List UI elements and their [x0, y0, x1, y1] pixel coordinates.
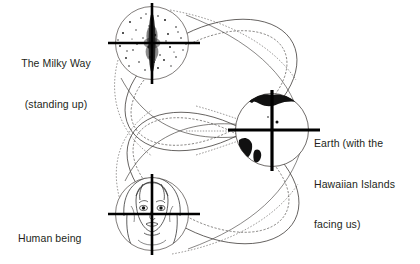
label-milky-way-line1: The Milky Way	[6, 57, 106, 71]
label-earth-line2: Hawaiian Islands	[314, 178, 418, 192]
hawaiian-islands-marker	[276, 121, 279, 124]
label-earth-line3: facing us)	[314, 218, 418, 232]
label-human-being-line1: Human being	[18, 232, 128, 246]
label-human-being: Human being	[18, 205, 128, 264]
node-earth	[228, 90, 320, 171]
dotted-arc-top-right	[170, 10, 296, 80]
label-milky-way-line2: (standing up)	[6, 98, 106, 112]
label-milky-way: The Milky Way (standing up)	[6, 30, 106, 138]
label-earth: Earth (with the Hawaiian Islands facing …	[314, 110, 418, 259]
diagram-canvas: The Milky Way (standing up) Earth (with …	[0, 0, 420, 264]
label-earth-line1: Earth (with the	[314, 137, 418, 151]
